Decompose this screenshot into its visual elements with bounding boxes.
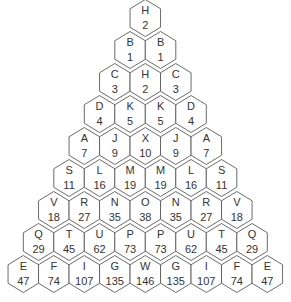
hex-number: 18 <box>48 211 60 223</box>
hex-number: 146 <box>136 275 154 287</box>
hex-cell: L16 <box>176 160 207 197</box>
hex-number: 45 <box>215 243 227 255</box>
hex-cell: E47 <box>252 256 282 293</box>
hex-cell: D4 <box>84 96 115 133</box>
hex-cell: D4 <box>176 96 207 133</box>
hex-number: 35 <box>109 211 121 223</box>
hex-letter: S <box>65 164 72 176</box>
hex-cell: F74 <box>39 256 70 293</box>
hex-number: 35 <box>170 211 182 223</box>
hex-cell: M19 <box>115 160 146 197</box>
hex-cell: K5 <box>115 96 146 133</box>
hex-letter: G <box>172 260 181 272</box>
hex-number: 19 <box>154 179 166 191</box>
hex-cell: K5 <box>145 96 176 133</box>
hex-cell: H2 <box>130 64 161 101</box>
hex-cell: U62 <box>176 224 207 261</box>
hex-number: 4 <box>96 115 102 127</box>
hex-cell: J9 <box>100 128 131 165</box>
hex-number: 10 <box>139 147 151 159</box>
hex-cell: G135 <box>161 256 192 293</box>
hex-number: 5 <box>127 115 133 127</box>
hex-number: 19 <box>124 179 136 191</box>
hex-letter: T <box>218 228 225 240</box>
hex-letter: A <box>81 132 89 144</box>
hex-letter: R <box>80 196 88 208</box>
hex-number: 73 <box>124 243 136 255</box>
hex-letter: D <box>187 100 195 112</box>
hex-letter: M <box>125 164 134 176</box>
hex-letter: P <box>126 228 133 240</box>
hex-cell: V18 <box>222 192 253 229</box>
hex-cell: L16 <box>84 160 115 197</box>
hex-letter: S <box>218 164 225 176</box>
hex-cell: U62 <box>84 224 115 261</box>
hex-letter: H <box>141 4 149 16</box>
hex-cell: F74 <box>222 256 253 293</box>
hex-number: 7 <box>81 147 87 159</box>
hex-cell: Q29 <box>237 224 267 261</box>
hex-letter: C <box>172 68 180 80</box>
hex-number: 47 <box>17 275 29 287</box>
hex-cell: I107 <box>191 256 222 293</box>
hex-letter: O <box>141 196 150 208</box>
hex-letter: B <box>126 36 133 48</box>
hex-letter: J <box>112 132 118 144</box>
hex-cell: C3 <box>161 64 192 101</box>
hexagon-layer: H2B1B1C3H2C3D4K5K5D4A7J9X10J9A7S11L16M19… <box>8 0 283 293</box>
hex-number: 38 <box>139 211 151 223</box>
hex-letter: L <box>188 164 194 176</box>
hex-letter: H <box>141 68 149 80</box>
hex-letter: T <box>66 228 73 240</box>
hex-letter: N <box>111 196 119 208</box>
hex-cell: S11 <box>54 160 85 197</box>
hex-letter: A <box>203 132 211 144</box>
hex-cell: B1 <box>145 32 176 69</box>
hex-letter: R <box>202 196 210 208</box>
hex-letter: F <box>233 260 240 272</box>
hex-letter: V <box>233 196 241 208</box>
hex-number: 7 <box>203 147 209 159</box>
hex-number: 4 <box>188 115 194 127</box>
hex-number: 47 <box>261 275 273 287</box>
hex-number: 73 <box>154 243 166 255</box>
hex-letter: D <box>96 100 104 112</box>
hex-number: 11 <box>63 179 74 191</box>
hex-letter: J <box>173 132 179 144</box>
hex-cell: P73 <box>115 224 146 261</box>
hex-number: 74 <box>231 275 243 287</box>
hex-number: 29 <box>246 243 258 255</box>
hex-letter: P <box>157 228 164 240</box>
hex-number: 135 <box>106 275 124 287</box>
hex-cell: I107 <box>69 256 100 293</box>
hexagon-pyramid-diagram: H2B1B1C3H2C3D4K5K5D4A7J9X10J9A7S11L16M19… <box>0 0 291 302</box>
hex-letter: M <box>156 164 165 176</box>
hex-letter: Q <box>248 228 257 240</box>
hex-number: 107 <box>75 275 93 287</box>
hex-number: 62 <box>93 243 105 255</box>
hex-number: 1 <box>157 51 163 63</box>
hex-letter: I <box>205 260 208 272</box>
hex-letter: X <box>142 132 150 144</box>
hex-cell: C3 <box>100 64 131 101</box>
hex-number: 2 <box>142 19 148 31</box>
hex-letter: E <box>20 260 27 272</box>
hex-letter: V <box>50 196 58 208</box>
hex-letter: F <box>50 260 57 272</box>
hex-cell: J9 <box>161 128 192 165</box>
hex-number: 2 <box>142 83 148 95</box>
hex-cell: Q29 <box>23 224 54 261</box>
hex-number: 5 <box>157 115 163 127</box>
hex-letter: U <box>96 228 104 240</box>
hex-cell: R27 <box>191 192 222 229</box>
hex-cell: V18 <box>39 192 70 229</box>
hex-cell: G135 <box>100 256 131 293</box>
hex-letter: B <box>157 36 164 48</box>
hex-letter: K <box>157 100 165 112</box>
hex-cell: T45 <box>54 224 85 261</box>
hex-letter: C <box>111 68 119 80</box>
hex-number: 62 <box>185 243 197 255</box>
hex-letter: Q <box>34 228 43 240</box>
hex-cell: N35 <box>100 192 131 229</box>
hex-letter: L <box>96 164 102 176</box>
